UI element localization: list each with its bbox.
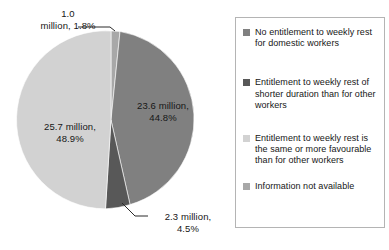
legend-item-information-not-available[interactable]: Information not available [243, 181, 378, 192]
legend-swatch-icon [243, 29, 250, 36]
legend-item-shorter-duration[interactable]: Entitlement to weekly rest of shorter du… [243, 77, 378, 111]
legend-item-label: Entitlement to weekly rest is the same o… [255, 133, 378, 167]
legend-swatch-icon [243, 135, 250, 142]
slice-label-information-not-available: 1.0 million, 1.8% [22, 8, 114, 31]
slice-label-line-2: 4.5% [177, 223, 199, 234]
legend-item-label: No entitlement to weekly rest for domest… [255, 27, 378, 49]
pie-slice-same-or-more-favourable[interactable] [17, 31, 111, 209]
slice-label-shorter-duration: 2.3 million, 4.5% [148, 211, 228, 234]
legend-item-label: Information not available [255, 181, 354, 192]
slice-label-no-entitlement: 23.6 million, 44.8% [120, 100, 206, 123]
legend-item-same-or-more-favourable[interactable]: Entitlement to weekly rest is the same o… [243, 133, 378, 167]
slice-label-line-1: 2.3 million, [165, 211, 212, 222]
legend-swatch-icon [243, 79, 250, 86]
slice-label-line-2: 48.9% [56, 133, 83, 144]
legend-item-label: Entitlement to weekly rest of shorter du… [255, 77, 378, 111]
pie-chart-area: 23.6 million, 44.8% 25.7 million, 48.9% … [0, 0, 232, 250]
chart-legend: No entitlement to weekly rest for domest… [235, 17, 385, 228]
slice-label-line-1: 1.0 [61, 8, 75, 19]
slice-label-line-1: 25.7 million, [44, 121, 96, 132]
slice-label-same-or-more-favourable: 25.7 million, 48.9% [26, 121, 114, 144]
legend-item-no-entitlement[interactable]: No entitlement to weekly rest for domest… [243, 27, 378, 49]
legend-swatch-icon [243, 183, 250, 190]
slice-label-line-2: 44.8% [149, 112, 176, 123]
slice-label-line-1: 23.6 million, [137, 100, 189, 111]
slice-label-line-2: million, 1.8% [40, 20, 95, 31]
